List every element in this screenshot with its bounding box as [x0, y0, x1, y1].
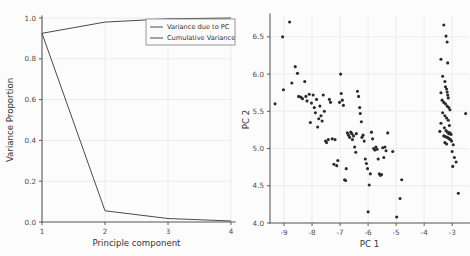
scatter-point: [377, 157, 380, 160]
figure-container: 0.00.20.40.60.81.01234Principle componen…: [0, 0, 470, 256]
scatter-point: [321, 119, 324, 122]
scatter-point: [453, 156, 456, 159]
scatter-point: [364, 157, 367, 160]
x-tick-label: 1: [40, 227, 45, 236]
scatter-point: [443, 80, 446, 83]
scatter-point: [363, 140, 366, 143]
scatter-point: [281, 35, 284, 38]
scatter-point: [439, 122, 442, 125]
scatter-point: [365, 162, 368, 165]
x-tick-label: -7: [336, 228, 343, 237]
scatter-point: [450, 133, 453, 136]
scatter-point: [382, 156, 385, 159]
scatter-point: [446, 41, 449, 44]
scatter-point: [367, 210, 370, 213]
scatter-point: [446, 90, 449, 93]
scatter-point: [360, 120, 363, 123]
scatter-point: [318, 105, 321, 108]
scatter-point: [368, 183, 371, 186]
scatter-point: [323, 110, 326, 113]
scatter-point: [441, 75, 444, 78]
scatter-point: [445, 143, 448, 146]
y-tick-label: 5.5: [253, 107, 264, 116]
scatter-point: [366, 167, 369, 170]
scatter-point: [451, 165, 454, 168]
x-axis-title: PC 1: [360, 239, 379, 249]
scatter-point: [451, 150, 454, 153]
y-tick-label: 0.4: [25, 136, 37, 145]
scatter-point: [359, 112, 362, 115]
scatter-point: [322, 93, 325, 96]
scatter-point: [447, 96, 450, 99]
scatter-point: [358, 106, 361, 109]
x-tick-label: -5: [393, 228, 400, 237]
y-tick-label: 0.0: [25, 218, 37, 227]
scatter-point: [380, 173, 383, 176]
scatter-point: [308, 93, 311, 96]
scatter-point: [383, 146, 386, 149]
scatter-point: [355, 132, 358, 135]
x-tick-label: -9: [280, 228, 288, 237]
x-tick-label: -4: [421, 228, 429, 237]
scatter-point: [301, 97, 304, 100]
scatter-point: [328, 98, 331, 101]
scatter-point: [448, 108, 451, 111]
scatter-point: [304, 95, 307, 98]
scatter-point: [335, 164, 338, 167]
scatter-point: [351, 138, 354, 141]
scatter-point: [457, 192, 460, 195]
scatter-point: [356, 90, 359, 93]
scatter-point: [341, 99, 344, 102]
scatter-point: [332, 163, 335, 166]
scatter-point: [312, 93, 315, 96]
scatter-point: [336, 159, 339, 162]
scatter-point: [441, 111, 444, 114]
scatter-point: [400, 178, 403, 181]
x-tick-label: -3: [449, 228, 456, 237]
scatter-point: [444, 35, 447, 38]
legend-label-0: Variance due to PC: [167, 23, 230, 31]
x-tick-label: 2: [103, 227, 108, 236]
scatter-point: [450, 140, 453, 143]
x-tick-label: 3: [166, 227, 171, 236]
scatter-point: [313, 106, 316, 109]
scatter-point: [305, 99, 308, 102]
scatter-point: [339, 73, 342, 76]
y-tick-label: 4.0: [253, 219, 265, 228]
y-tick-label: 5.0: [253, 144, 265, 153]
y-tick-label: 0.8: [25, 54, 37, 63]
scatter-point: [442, 23, 445, 26]
y-tick-label: 1.0: [25, 14, 37, 23]
scatter-point: [344, 179, 347, 182]
scatter-point: [399, 197, 402, 200]
scatter-point: [354, 151, 357, 154]
scatter-point: [357, 95, 360, 98]
x-tick-label: -6: [365, 228, 373, 237]
scatter-point: [294, 65, 297, 68]
y-tick-label: 6.0: [253, 70, 265, 79]
y-tick-label: 0.2: [25, 177, 36, 186]
scatter-point: [314, 111, 317, 114]
scatter-point: [329, 101, 332, 104]
y-axis-title: Variance Proportion: [5, 78, 15, 162]
x-axis-title: Principle component: [93, 238, 182, 248]
scatter-point: [342, 104, 345, 107]
scatter-point: [333, 138, 336, 141]
scatter-point: [296, 72, 299, 75]
scree-plot-svg: 0.00.20.40.60.81.01234Principle componen…: [0, 0, 238, 256]
scatter-point: [439, 91, 442, 94]
scatter-point: [274, 102, 277, 105]
scatter-point: [448, 124, 451, 127]
scree-plot-panel: 0.00.20.40.60.81.01234Principle componen…: [0, 0, 238, 256]
scatter-point: [443, 126, 446, 129]
scatter-point: [288, 20, 291, 23]
scatter-point: [395, 215, 398, 218]
scatter-point: [353, 146, 356, 149]
scatter-point: [348, 136, 351, 139]
scatter-point: [464, 112, 467, 115]
scatter-point: [316, 125, 319, 128]
scatter-point: [384, 149, 387, 152]
scatter-point: [310, 102, 313, 105]
scatter-point: [338, 101, 341, 104]
scatter-point: [317, 117, 320, 120]
